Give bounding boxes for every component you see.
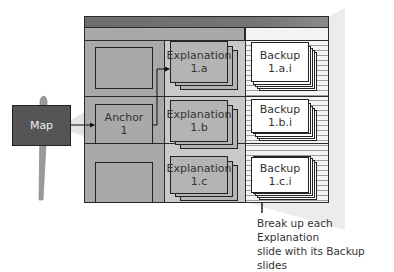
annotation-text: Break up each Explanation slide with its… [257, 216, 394, 272]
